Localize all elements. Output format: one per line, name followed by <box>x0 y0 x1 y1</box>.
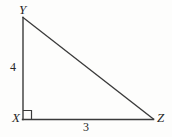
side-length-label-xz: 3 <box>83 121 89 133</box>
side-length-label-xy: 4 <box>10 61 16 73</box>
right-angle-marker-icon <box>23 111 32 120</box>
geometry-figure: Y X Z 4 3 <box>0 0 172 137</box>
segment-yz <box>23 18 154 120</box>
vertex-label-x: X <box>12 111 20 124</box>
vertex-label-y: Y <box>19 3 26 16</box>
vertex-label-z: Z <box>157 111 164 124</box>
triangle-svg <box>0 0 172 137</box>
